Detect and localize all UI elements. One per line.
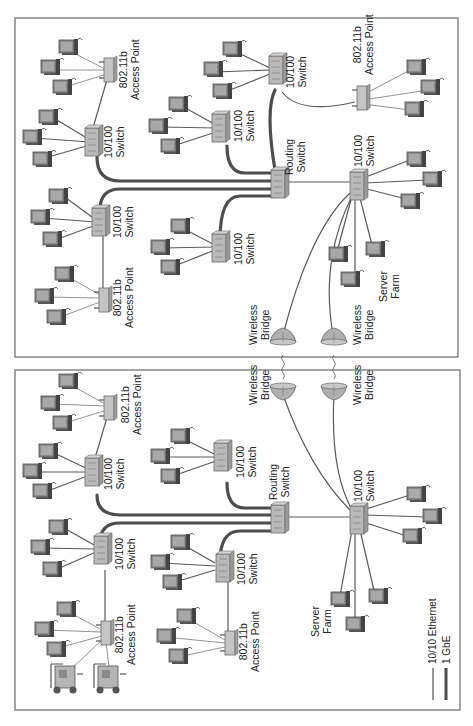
bottom-switch1-label: 10/100 Switch — [103, 458, 126, 490]
access-point-icon — [94, 286, 112, 312]
top-switch3-label: 10/100 Switch — [233, 110, 256, 142]
switch-icon — [85, 455, 103, 486]
top-switch1-label: 10/100 Switch — [103, 126, 126, 158]
routing-switch-icon — [271, 502, 289, 533]
bottom-wireless-bridge2-label: Wireless Bridge — [352, 365, 375, 405]
forklift-icon — [51, 664, 83, 694]
switch-icon — [214, 440, 232, 471]
wireless-bridge-icon — [270, 383, 296, 400]
wireless-bridge-icon — [270, 328, 296, 345]
top-server-farm-label: Server Farm — [378, 271, 401, 302]
wireless-bridge-icon — [321, 383, 347, 400]
switch-icon — [85, 125, 103, 156]
switch-icon — [350, 169, 368, 200]
top-server-switch-label: 10/100 Switch — [353, 135, 376, 167]
switch-icon — [212, 231, 230, 262]
top-switch4-label: 10/100 Switch — [233, 233, 256, 265]
top-ap1-label: 802.11b Access Point — [118, 39, 141, 100]
top-wireless-bridge1-label: Wireless Bridge — [248, 305, 271, 345]
top-ap2-label: 802.11b Access Point — [112, 267, 135, 328]
access-point-icon — [220, 629, 238, 655]
top-wireless-bridge2-label: Wireless Bridge — [352, 305, 375, 345]
bottom-ap1-label: 802.11b Access Point — [120, 374, 143, 435]
bottom-wireless-bridge1-label: Wireless Bridge — [248, 365, 271, 405]
bottom-ap2-label: 802.11b Access Point — [114, 604, 137, 665]
top-ap3-label: 802.11b Access Point — [352, 14, 375, 75]
top-switch5-label: 10/100 Switch — [285, 56, 308, 88]
top-switch2-label: 10/100 Switch — [112, 206, 135, 238]
bottom-switch3-label: 10/100 Switch — [235, 446, 258, 478]
legend — [433, 668, 446, 700]
switch-icon — [212, 111, 230, 142]
bottom-server-switch-label: 10/100 Switch — [353, 470, 376, 502]
switch-icon — [350, 503, 368, 534]
legend-ethernet-label: 10/10 Ethernet — [427, 598, 439, 664]
switch-icon — [92, 205, 110, 236]
bottom-switch2-label: 10/100 Switch — [114, 538, 137, 570]
forklift-icon — [94, 664, 126, 694]
bottom-routing-switch-label: Routing Switch — [268, 464, 291, 500]
access-point-icon — [352, 84, 370, 110]
bottom-switch4-label: 10/100 Switch — [236, 553, 259, 585]
wireless-bridge-icon — [321, 328, 347, 345]
bottom-server-farm-label: Server Farm — [310, 606, 333, 637]
wireless-link — [282, 355, 285, 379]
top-routing-switch-label: Routing Switch — [284, 139, 307, 175]
switch-icon — [94, 533, 112, 564]
bottom-ap3-label: 802.11b Access Point — [238, 611, 261, 672]
switch-icon — [216, 551, 234, 582]
legend-gbe-label: 1 GbE — [441, 636, 453, 664]
access-point-icon — [99, 394, 117, 420]
access-point-icon — [99, 56, 117, 82]
wireless-link — [333, 355, 336, 379]
